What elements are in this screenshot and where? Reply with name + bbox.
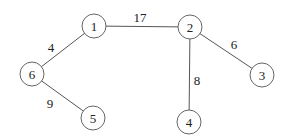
edges-layer	[32, 26, 262, 122]
node-label: 4	[186, 115, 193, 130]
edge-weight-2-3: 6	[231, 37, 238, 52]
edge-weight-2-4: 8	[194, 73, 201, 88]
node-2: 2	[178, 15, 202, 39]
node-label: 3	[259, 68, 266, 83]
edge-weight-6-5: 9	[47, 96, 54, 111]
edge-1-2	[94, 26, 190, 27]
edge-labels-layer: 174689	[47, 10, 238, 111]
node-6: 6	[20, 62, 44, 86]
edge-2-4	[189, 27, 190, 122]
edge-weight-1-6: 4	[48, 40, 55, 55]
node-label: 6	[29, 67, 36, 82]
node-label: 5	[90, 111, 97, 126]
node-4: 4	[177, 110, 201, 134]
node-label: 1	[91, 19, 98, 34]
node-1: 1	[82, 14, 106, 38]
edge-2-3	[190, 27, 262, 75]
graph-diagram: 174689 123456	[0, 0, 287, 140]
nodes-layer: 123456	[20, 14, 274, 134]
node-3: 3	[250, 63, 274, 87]
node-5: 5	[81, 106, 105, 130]
node-label: 2	[187, 20, 194, 35]
edge-weight-1-2: 17	[134, 10, 148, 25]
